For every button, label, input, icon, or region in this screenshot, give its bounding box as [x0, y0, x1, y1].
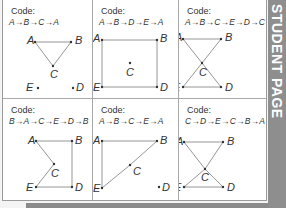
grid-cell-6: Code: C→D→E→C→B→A→C A B C E D — [179, 99, 266, 200]
path-diagram: A B C E D — [3, 0, 93, 99]
grid-cell-2: Code: A→B→D→E→A A B C E D — [93, 0, 179, 99]
svg-text:C: C — [50, 68, 58, 80]
svg-text:E: E — [179, 181, 182, 193]
svg-text:A: A — [179, 135, 183, 147]
svg-text:E: E — [179, 81, 181, 93]
svg-text:B: B — [160, 134, 167, 146]
grid-cell-4: Code: B→A→C→E→D→B A B C E D — [3, 99, 93, 200]
grid-cell-5: Code: A→B→C→E→A A B C E D — [93, 99, 179, 200]
student-page-label: STUDENT PAGE — [269, 4, 285, 119]
svg-text:B: B — [75, 134, 82, 146]
svg-text:C: C — [199, 66, 207, 78]
path-diagram: A B C E D — [3, 99, 93, 200]
svg-text:B: B — [160, 32, 167, 44]
side-banner: STUDENT PAGE — [268, 0, 286, 208]
grid-cell-1: Code: A→B→C→A A B C E D — [3, 0, 93, 99]
svg-text:A: A — [26, 34, 34, 46]
svg-text:D: D — [227, 181, 235, 193]
svg-text:B: B — [227, 135, 234, 147]
svg-text:A: A — [93, 134, 100, 146]
path-diagram: A B C E D — [93, 99, 179, 200]
svg-text:D: D — [76, 81, 84, 93]
svg-text:E: E — [93, 81, 101, 93]
svg-text:C: C — [201, 171, 209, 183]
svg-text:C: C — [51, 167, 59, 179]
svg-text:C: C — [126, 66, 134, 78]
grid-cell-3: Code: A→B→C→E→D→C→A A B C E D — [179, 0, 266, 99]
path-diagram: A B C E D — [179, 0, 266, 99]
bottom-strip — [26, 203, 286, 208]
svg-text:E: E — [93, 182, 101, 194]
svg-text:D: D — [225, 81, 233, 93]
svg-text:A: A — [179, 31, 182, 43]
svg-text:A: A — [27, 134, 35, 146]
svg-text:B: B — [75, 34, 82, 46]
svg-text:C: C — [133, 165, 141, 177]
svg-text:D: D — [162, 181, 170, 193]
path-diagram: A B C E D — [93, 0, 179, 99]
code-grid: Code: A→B→C→A A B C E D Code: A→B→D→E→A … — [2, 0, 267, 201]
svg-text:D: D — [160, 81, 168, 93]
svg-text:A: A — [93, 32, 100, 44]
svg-text:E: E — [26, 181, 34, 193]
path-diagram: A B C E D — [179, 99, 266, 200]
svg-text:B: B — [225, 31, 232, 43]
svg-text:E: E — [26, 81, 34, 93]
svg-text:D: D — [75, 181, 83, 193]
